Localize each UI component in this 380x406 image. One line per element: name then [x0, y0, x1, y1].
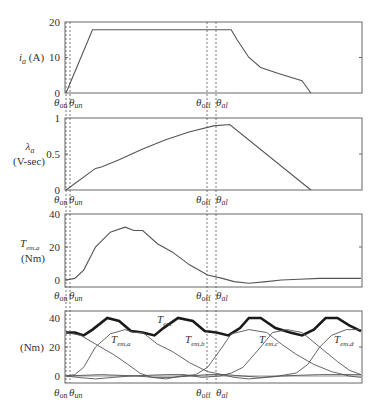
- ytick-label: 0: [55, 370, 61, 382]
- ytick-label: 20: [49, 16, 61, 28]
- annotation-tem-d: Tem,d: [334, 333, 354, 348]
- theta-off-label: θoff: [196, 193, 211, 207]
- ylabel-unit: (V-sec): [13, 155, 45, 168]
- theta-al-label: θal: [216, 96, 228, 110]
- ylabel: Tem,a: [20, 237, 40, 252]
- panel-current: 20 10 0 ia (A): [19, 16, 362, 99]
- panel-frame: [65, 311, 362, 383]
- panel-frame: [65, 22, 362, 93]
- annotation-tem-b: Tem,b: [185, 333, 205, 348]
- annotation-tem: Tem: [157, 313, 171, 328]
- panel-total-torque: 40 20 0 (Nm) Tem Tem,a Tem,b Tem,c Tem,d: [20, 311, 362, 383]
- ytick-label: 10: [49, 51, 61, 63]
- panel-frame: [65, 118, 362, 190]
- theta-on-label: θon: [54, 193, 67, 207]
- current-curve: [66, 30, 311, 93]
- figure: 20 10 0 ia (A) 1 0.5 0 λa (V-sec) 40 20 …: [0, 0, 380, 406]
- ylabel-unit: (Nm): [21, 252, 45, 265]
- ylabel: ia (A): [19, 51, 44, 66]
- panel-flux-linkage: 1 0.5 0 λa (V-sec): [13, 112, 362, 196]
- theta-un-label: θun: [69, 289, 82, 303]
- theta-off-label: θoff: [196, 386, 211, 400]
- theta-on-label: θon: [54, 289, 67, 303]
- ytick-label: 20: [49, 341, 61, 353]
- theta-un-label: θun: [69, 96, 82, 110]
- theta-un-label: θun: [69, 386, 82, 400]
- theta-on-label: θon: [54, 96, 67, 110]
- flux-curve: [66, 125, 311, 191]
- theta-al-label: θal: [216, 289, 228, 303]
- ytick-label: 20: [49, 241, 61, 253]
- ytick-label: 1: [55, 112, 61, 124]
- theta-labels: θonθunθoffθalθonθunθoffθalθonθunθoffθalθ…: [54, 96, 228, 400]
- torque-curves: [66, 318, 361, 379]
- ytick-label: 40: [49, 208, 61, 220]
- theta-al-label: θal: [216, 193, 228, 207]
- ylabel: λa: [25, 140, 35, 155]
- ytick-label: 40: [49, 312, 61, 324]
- theta-on-label: θon: [54, 386, 67, 400]
- ylabel: (Nm): [20, 341, 44, 354]
- theta-off-label: θoff: [196, 289, 211, 303]
- ytick-label: 0.5: [46, 148, 60, 160]
- theta-al-label: θal: [216, 386, 228, 400]
- annotation-tem-a: Tem,a: [111, 333, 131, 348]
- ytick-label: 0: [55, 274, 61, 286]
- theta-off-label: θoff: [196, 96, 211, 110]
- theta-un-label: θun: [69, 193, 82, 207]
- phase-torque-curve: [66, 227, 361, 283]
- panel-phase-torque: 40 20 0 Tem,a (Nm): [20, 208, 362, 287]
- theta-markers: [66, 22, 216, 383]
